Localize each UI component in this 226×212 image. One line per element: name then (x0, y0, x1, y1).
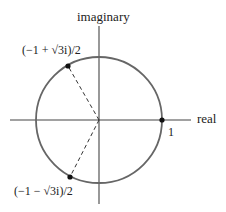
point-upper-label: (−1 + √3i)/2 (22, 44, 81, 56)
real-axis-label: real (197, 112, 216, 125)
point-lower (67, 174, 72, 179)
point-lower-label: (−1 − √3i)/2 (14, 185, 73, 197)
complex-plane-diagram (0, 0, 226, 212)
point-one (159, 117, 164, 122)
dashed-ray-upper (68, 66, 99, 120)
imaginary-axis-label: imaginary (77, 10, 130, 23)
dashed-ray-lower (70, 120, 99, 177)
point-one-label: 1 (168, 126, 174, 138)
point-upper (65, 63, 70, 68)
